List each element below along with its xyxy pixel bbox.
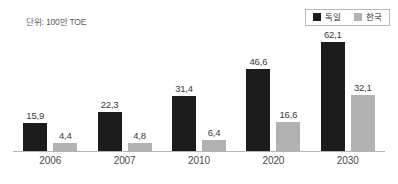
- bar-germany[interactable]: 15,9: [23, 32, 47, 151]
- bar-group: 31,46,4: [162, 32, 236, 151]
- bar-value-label: 6,4: [208, 127, 221, 138]
- bar-rect[interactable]: [128, 143, 152, 151]
- bar-value-label: 46,6: [250, 56, 268, 67]
- bar-rect[interactable]: [172, 96, 196, 151]
- legend-item-korea: 한국: [354, 13, 382, 22]
- chart-legend: 독일 한국: [305, 9, 390, 26]
- bar-korea[interactable]: 6,4: [202, 32, 226, 151]
- unit-caption: 단위: 100만 TOE: [26, 15, 86, 27]
- x-tick-label: 2010: [188, 155, 210, 166]
- legend-label-germany: 독일: [325, 13, 341, 22]
- legend-item-germany: 독일: [313, 13, 341, 22]
- bar-korea[interactable]: 16,6: [276, 32, 300, 151]
- bar-value-label: 15,9: [26, 110, 44, 121]
- x-tick-label: 2020: [262, 155, 284, 166]
- bar-germany[interactable]: 46,6: [246, 32, 270, 151]
- legend-swatch-filled-square-korea: [354, 13, 362, 21]
- bar-rect[interactable]: [321, 42, 345, 151]
- bar-value-label: 22,3: [101, 99, 119, 110]
- x-axis-tick-labels: 20062007201020202030: [0, 155, 398, 175]
- bar-chart: 단위: 100만 TOE 독일 한국 15,94,422,34,831,46,4…: [0, 0, 398, 184]
- plot-area: 15,94,422,34,831,46,446,616,662,132,1: [0, 32, 398, 152]
- bar-rect[interactable]: [23, 123, 47, 151]
- bar-group: 22,34,8: [87, 32, 161, 151]
- bar-rect[interactable]: [98, 112, 122, 151]
- x-tick-label: 2006: [39, 155, 61, 166]
- legend-swatch-filled-square-germany: [313, 13, 321, 21]
- bar-rect[interactable]: [276, 122, 300, 151]
- bar-group: 15,94,4: [13, 32, 87, 151]
- bar-value-label: 62,1: [324, 29, 342, 40]
- bar-value-label: 31,4: [175, 83, 193, 94]
- bar-value-label: 4,8: [133, 130, 146, 141]
- x-tick-label: 2030: [337, 155, 359, 166]
- bar-value-label: 16,6: [280, 109, 298, 120]
- bar-korea[interactable]: 4,4: [53, 32, 77, 151]
- bar-group: 46,616,6: [236, 32, 310, 151]
- bar-korea[interactable]: 4,8: [128, 32, 152, 151]
- bar-group: 62,132,1: [311, 32, 385, 151]
- bar-rect[interactable]: [246, 69, 270, 151]
- x-tick-label: 2007: [114, 155, 136, 166]
- bar-germany[interactable]: 22,3: [98, 32, 122, 151]
- bar-rect[interactable]: [53, 143, 77, 151]
- bar-germany[interactable]: 62,1: [321, 32, 345, 151]
- legend-label-korea: 한국: [366, 13, 382, 22]
- bar-value-label: 4,4: [59, 130, 72, 141]
- bar-rect[interactable]: [202, 140, 226, 151]
- bar-value-label: 32,1: [354, 82, 372, 93]
- bar-germany[interactable]: 31,4: [172, 32, 196, 151]
- bar-korea[interactable]: 32,1: [351, 32, 375, 151]
- x-axis-baseline: [13, 151, 385, 152]
- bar-rect[interactable]: [351, 95, 375, 151]
